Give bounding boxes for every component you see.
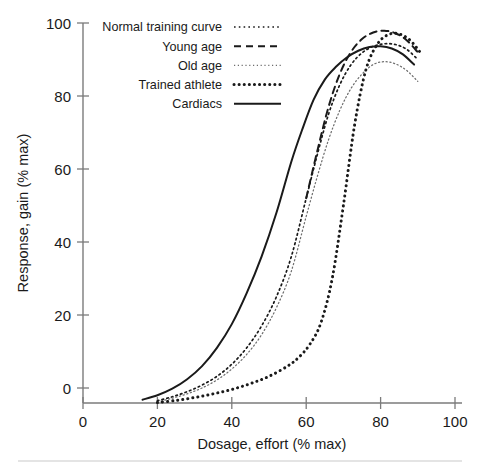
x-tick-label: 20: [149, 413, 166, 430]
y-tick-label: 100: [46, 15, 71, 32]
y-tick-label: 20: [54, 307, 71, 324]
legend-label-old-age: Old age: [178, 59, 222, 73]
series-line-old-age: [157, 62, 417, 402]
x-axis-title: Dosage, effort (% max): [198, 436, 347, 452]
x-tick-label: 80: [372, 413, 389, 430]
y-tick-label: 60: [54, 161, 71, 178]
series-line-young-age: [306, 31, 418, 199]
legend-label-trained-athlete: Trained athlete: [138, 78, 222, 92]
x-tick-label: 40: [223, 413, 240, 430]
y-tick-label: 0: [63, 380, 71, 397]
x-tick-label: 0: [79, 413, 87, 430]
x-tick-label: 60: [298, 413, 315, 430]
x-axis-ticks: 020406080100: [79, 397, 468, 430]
y-tick-label: 40: [54, 234, 71, 251]
legend-label-cardiacs: Cardiacs: [172, 97, 222, 111]
legend-label-normal-training-curve: Normal training curve: [102, 20, 222, 34]
line-chart: 020406080100 020406080100 Dosage, effort…: [0, 0, 480, 471]
legend-label-young-age: Young age: [162, 40, 222, 54]
y-axis-title: Response, gain (% max): [15, 134, 31, 293]
y-tick-label: 80: [54, 88, 71, 105]
x-tick-label: 100: [442, 413, 467, 430]
chart-figure: 020406080100 020406080100 Dosage, effort…: [0, 0, 480, 471]
chart-legend: Normal training curveYoung ageOld ageTra…: [102, 20, 281, 111]
